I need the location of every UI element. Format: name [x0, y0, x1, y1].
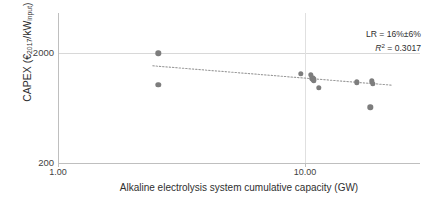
data-point [298, 71, 303, 76]
y-axis-title-end: ) [21, 2, 33, 6]
data-point [156, 51, 161, 56]
gridline-x-10 [305, 13, 306, 163]
x-tick-label-10: 10.00 [275, 167, 335, 177]
data-point [370, 81, 375, 86]
y-axis-title-main: CAPEX (€ [21, 54, 33, 102]
y-axis-title-mid: /kW [21, 21, 33, 39]
data-point [311, 78, 316, 83]
learning-rate-text: LR = 16%±6% [366, 29, 421, 40]
data-point [368, 105, 373, 110]
data-point [354, 80, 359, 85]
y-axis-title: CAPEX (€2017/kWinput) [21, 0, 33, 127]
data-point [156, 82, 161, 87]
regression-annotation: LR = 16%±6% R2 = 0.3017 [366, 29, 421, 54]
y-axis-title-sub-input: input [26, 6, 33, 21]
x-axis-line [58, 163, 420, 164]
x-axis-title: Alkaline electrolysis system cumulative … [58, 182, 420, 193]
r-squared-text: R2 = 0.3017 [366, 40, 421, 54]
chart-container: 2000 200 1.00 10.00 CAPEX (€2017/kWinput… [0, 0, 429, 204]
data-point [316, 85, 321, 90]
x-tick-label-1: 1.00 [28, 167, 88, 177]
y-axis-title-sub-year: 2017 [26, 39, 33, 54]
r-squared-value: = 0.3017 [385, 43, 421, 53]
y-axis-line [58, 13, 59, 163]
